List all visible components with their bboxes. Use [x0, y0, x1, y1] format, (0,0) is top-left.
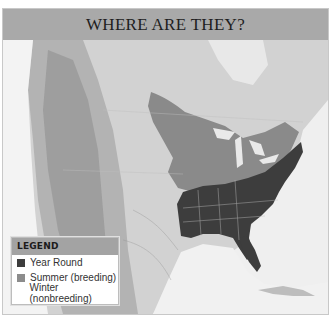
- legend-item-winter: Winter (nonbreeding): [12, 285, 118, 300]
- legend-label: Year Round: [30, 257, 82, 268]
- map-legend: LEGEND Year Round Summer (breeding) Wint…: [11, 237, 119, 305]
- year-round-swatch-icon: [17, 259, 25, 267]
- legend-item-year-round: Year Round: [12, 255, 118, 270]
- map-title: WHERE ARE THEY?: [86, 15, 245, 35]
- winter-swatch-icon: [17, 289, 25, 297]
- legend-heading: LEGEND: [12, 238, 118, 255]
- legend-label: Winter (nonbreeding): [30, 282, 118, 304]
- summer-swatch-icon: [17, 274, 25, 282]
- range-map-figure: WHERE ARE THEY?: [2, 8, 329, 315]
- title-bar: WHERE ARE THEY?: [3, 9, 328, 40]
